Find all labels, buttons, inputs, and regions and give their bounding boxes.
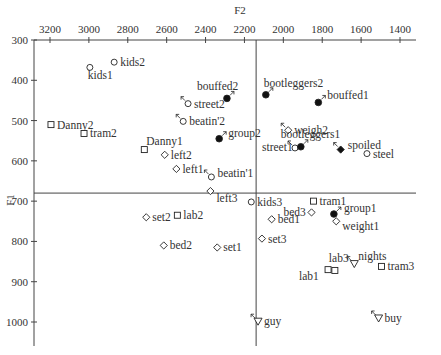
data-point: bed2 — [160, 239, 192, 251]
y-tick-label: 800 — [12, 235, 29, 247]
arrow-up-left-icon — [372, 311, 376, 315]
point-label: guy — [264, 315, 282, 328]
point-marker-square — [174, 212, 180, 218]
point-marker-circle — [331, 211, 338, 218]
point-label: left3 — [216, 192, 237, 204]
data-point: group2 — [216, 127, 261, 142]
data-point: beatin'2 — [176, 114, 225, 127]
y-tick-label: 700 — [12, 195, 29, 207]
point-marker-square — [310, 198, 316, 204]
point-marker-circle — [364, 151, 370, 157]
x-tick-label: 3000 — [78, 23, 101, 35]
point-label: tram1 — [319, 195, 346, 207]
point-marker-diamond — [258, 235, 265, 242]
point-label: bootleggers1 — [281, 128, 341, 141]
point-marker-diamond — [161, 151, 168, 158]
data-point: kids2 — [111, 56, 145, 68]
point-marker-triangle — [254, 318, 262, 325]
scatter-chart: F2 F1 3200300028002600240022002000180016… — [0, 0, 441, 355]
point-marker-diamond — [160, 242, 167, 249]
point-label: beatin'1 — [217, 167, 253, 179]
data-point: left2 — [161, 149, 192, 161]
data-point: buy — [372, 311, 403, 325]
data-point: set3 — [258, 233, 286, 245]
point-marker-circle — [216, 135, 223, 142]
y-tick-label: 600 — [12, 155, 29, 167]
point-marker-circle — [298, 143, 305, 150]
data-point: tram3 — [379, 260, 415, 272]
point-label: left2 — [171, 149, 192, 161]
point-label: bootleggers2 — [264, 77, 324, 90]
point-label: lab1 — [299, 270, 319, 282]
point-marker-circle — [292, 145, 298, 151]
point-label: street1 — [262, 141, 293, 153]
point-marker-diamond — [214, 244, 221, 251]
point-marker-triangle — [375, 315, 383, 322]
point-marker-diamond — [337, 146, 344, 153]
point-marker-square — [48, 122, 54, 128]
arrow-up-right-icon — [337, 207, 341, 211]
point-label: bed2 — [170, 239, 193, 251]
x-tick-label: 3200 — [39, 23, 62, 35]
point-label: group2 — [228, 127, 261, 140]
point-marker-diamond — [143, 214, 150, 221]
point-label: bed1 — [278, 213, 301, 225]
point-label: tram3 — [388, 260, 415, 272]
point-marker-diamond — [268, 216, 275, 223]
arrow-up-left-icon — [204, 170, 208, 174]
point-label: kids3 — [257, 196, 282, 208]
data-point: left1 — [173, 163, 204, 175]
data-point: beatin'1 — [204, 167, 253, 180]
point-marker-triangle — [350, 261, 358, 268]
data-point: left3 — [207, 187, 238, 204]
data-point: bouffed1 — [315, 89, 369, 105]
x-axis-title: F2 — [234, 4, 246, 16]
data-point: tram1 — [310, 195, 346, 207]
data-point: lab3 — [329, 252, 349, 273]
point-label: nights — [358, 250, 387, 263]
point-marker-diamond — [173, 165, 180, 172]
point-label: bouffed1 — [327, 89, 369, 101]
point-marker-circle — [248, 199, 254, 205]
point-marker-circle — [111, 59, 117, 65]
arrow-up-left-icon — [181, 97, 185, 101]
data-point: street2 — [181, 97, 225, 110]
point-label: lab3 — [329, 252, 349, 264]
point-marker-diamond — [333, 218, 340, 225]
y-tick-label: 500 — [12, 115, 29, 127]
data-point: Danny2 — [48, 119, 94, 132]
data-point: kids1 — [87, 64, 113, 81]
x-tick-label: 1400 — [389, 23, 412, 35]
y-tick-label: 300 — [12, 34, 29, 46]
data-point: set1 — [214, 241, 242, 253]
point-marker-circle — [315, 99, 322, 106]
x-tick-label: 2200 — [233, 23, 256, 35]
point-label: beatin'2 — [189, 115, 225, 127]
x-tick-label: 2800 — [117, 23, 140, 35]
x-tick-label: 2400 — [195, 23, 218, 35]
point-marker-diamond — [308, 209, 315, 216]
point-label: tram2 — [90, 127, 117, 139]
point-label: Danny1 — [146, 135, 183, 148]
point-label: group1 — [344, 202, 377, 215]
x-tick-label: 2000 — [272, 23, 295, 35]
data-point: weight1 — [333, 218, 380, 234]
data-point: kids3 — [248, 196, 282, 208]
point-marker-circle — [185, 101, 191, 107]
point-label: Danny2 — [57, 119, 94, 132]
point-label: weight1 — [342, 220, 379, 233]
point-marker-square — [81, 130, 87, 136]
point-marker-square — [325, 267, 331, 273]
arrow-up-right-icon — [304, 140, 308, 144]
point-marker-diamond — [207, 187, 214, 194]
x-tick-label: 1600 — [350, 23, 373, 35]
y-tick-label: 1000 — [6, 316, 29, 328]
data-point: set2 — [143, 211, 171, 223]
arrow-up-left-icon — [176, 114, 180, 118]
point-marker-square — [141, 147, 147, 153]
point-label: street2 — [194, 98, 225, 110]
point-label: left1 — [182, 163, 203, 175]
data-points: kids2kids1Danny2tram2Danny1left2left1bea… — [48, 56, 415, 328]
data-point: bootleggers2 — [263, 77, 324, 98]
point-label: set2 — [152, 211, 171, 223]
